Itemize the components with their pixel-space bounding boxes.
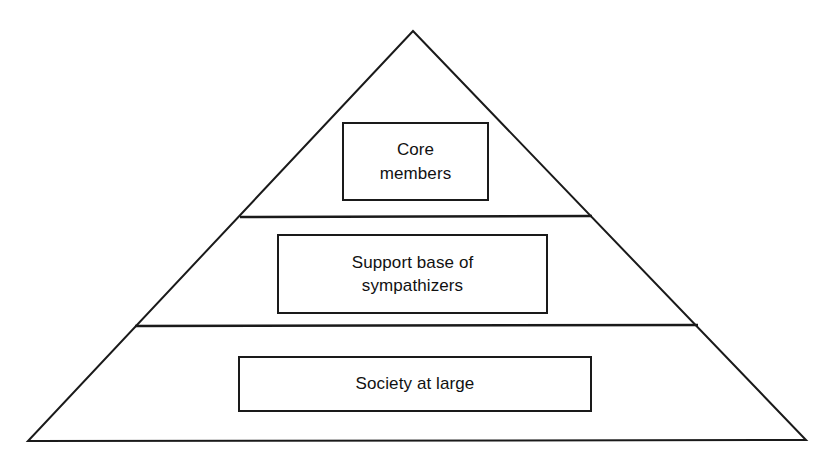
divider-upper-line (240, 216, 592, 217)
tier-label-support: Support base of sympathizers (348, 251, 478, 298)
tier-box-support: Support base of sympathizers (277, 234, 548, 314)
tier-box-core: Core members (342, 122, 489, 201)
divider-lower-line (135, 325, 698, 326)
tier-box-society: Society at large (238, 356, 592, 412)
tier-label-core: Core members (376, 138, 456, 185)
diagram-canvas: Core members Support base of sympathizer… (0, 0, 827, 463)
tier-label-society: Society at large (352, 372, 479, 395)
